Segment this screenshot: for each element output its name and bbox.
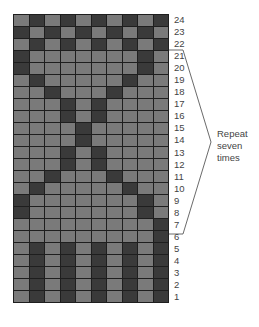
- repeat-note-line3: times: [217, 152, 248, 164]
- repeat-note-line1: Repeat: [217, 128, 248, 140]
- repeat-note: Repeat seven times: [217, 128, 248, 164]
- repeat-note-line2: seven: [217, 140, 248, 152]
